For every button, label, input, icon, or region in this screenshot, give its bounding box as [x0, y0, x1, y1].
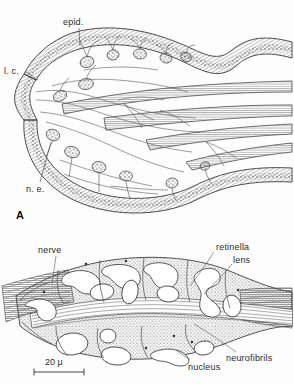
label-lens: lens [233, 256, 250, 265]
label-l-c: l. c. [4, 67, 19, 76]
label-epid: epid. [63, 18, 84, 27]
label-neurofibrils: neurofibrils [226, 354, 272, 363]
panel-a-eye-longitudinal-section [0, 0, 294, 230]
panel-letter-a: A [16, 210, 24, 221]
label-nerve: nerve [38, 246, 62, 255]
lens-11 [100, 329, 116, 343]
figure-plate: epid. l. c. n. e. A [0, 0, 294, 384]
label-n-e: n. e. [26, 185, 45, 194]
label-nucleus: nucleus [188, 363, 220, 372]
scale-bar-label: 20 μ [45, 358, 63, 367]
panel-a-drawing [0, 0, 294, 230]
label-retinella: retinella [216, 243, 249, 252]
